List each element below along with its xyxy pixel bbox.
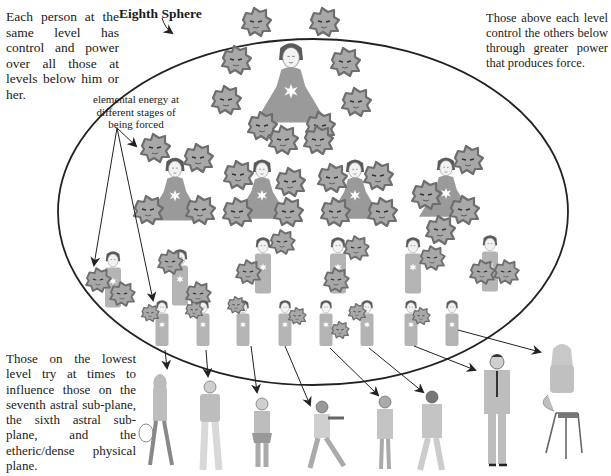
person-woman-with-hat (139, 374, 172, 465)
annotation-elemental-energy: elemental energy at different stages of … (88, 93, 184, 131)
person-man-in-suit (484, 354, 510, 465)
person-armed-soldier (310, 401, 344, 468)
level-4-lowest (142, 297, 459, 346)
person-woman-on-stool (543, 344, 582, 459)
annotation-top-left: Each person at the same level has contro… (6, 9, 119, 102)
person-man-in-jacket (420, 391, 442, 470)
physical-plane-people (139, 344, 582, 470)
level-2-controllers (134, 126, 483, 244)
annotation-bottom-left: Those on the lowest level try at times t… (6, 351, 136, 473)
annotation-top-right: Those above each level control the other… (486, 11, 608, 71)
level-1-controller (212, 8, 371, 140)
level-3-controllers (86, 230, 519, 308)
diagram-title: Eighth Sphere (119, 6, 202, 22)
person-young-man (200, 381, 220, 470)
person-girl-with-toy (252, 398, 272, 467)
person-businesswoman (377, 396, 393, 469)
